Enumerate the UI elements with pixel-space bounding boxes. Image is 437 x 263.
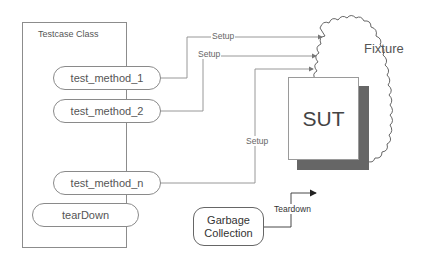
testcase-class-title: Testcase Class [38, 29, 99, 39]
test-method-n-node[interactable]: test_method_n [53, 171, 161, 195]
teardown-method-node[interactable]: tearDown [32, 203, 139, 227]
setup-connector-1 [160, 37, 322, 78]
test-method-2-label: test_method_2 [71, 105, 144, 117]
sut-label: SUT [303, 107, 345, 131]
test-method-n-label: test_method_n [71, 177, 144, 189]
setup-label-2: Setup [197, 49, 221, 59]
setup-label-n: Setup [245, 136, 269, 146]
test-method-2-node[interactable]: test_method_2 [53, 99, 161, 123]
gc-label-line1: Garbage [207, 214, 250, 227]
gc-label-line2: Collection [204, 227, 252, 240]
test-method-1-label: test_method_1 [71, 72, 144, 84]
setup-label-1: Setup [211, 31, 235, 41]
garbage-collection-node[interactable]: Garbage Collection [193, 207, 264, 246]
test-method-1-node[interactable]: test_method_1 [53, 66, 161, 90]
sut-box[interactable]: SUT [288, 77, 359, 160]
fixture-label: Fixture [364, 41, 404, 56]
teardown-method-label: tearDown [62, 209, 109, 221]
teardown-label: Teardown [273, 204, 312, 214]
